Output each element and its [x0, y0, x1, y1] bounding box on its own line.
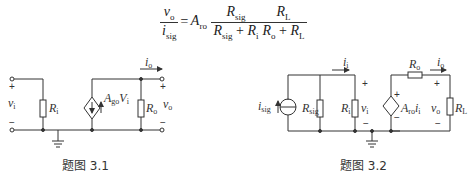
vi-plus: +: [362, 78, 368, 89]
vo-plus: +: [434, 78, 440, 89]
vi-minus: −: [363, 118, 369, 129]
resistor-ri: [352, 100, 358, 117]
label-vi: vi: [8, 96, 16, 111]
label-rsig: Rsig: [301, 101, 319, 116]
figure-3-2-caption: 题图 3.2: [340, 156, 387, 173]
resistor-ro: [408, 72, 422, 78]
label-vi: vi: [361, 101, 369, 116]
figure-3-1-circuit: [10, 69, 164, 147]
label-dependent-source: AgoVi: [103, 91, 130, 106]
vo-minus: −: [435, 118, 441, 129]
label-ii: ii: [343, 55, 349, 70]
label-isig: isig: [258, 99, 271, 114]
vo-minus: −: [160, 117, 166, 128]
resistor-ro: [138, 100, 144, 117]
source-plus: +: [394, 89, 400, 100]
label-io: io: [145, 55, 152, 70]
label-ro: Ro: [408, 57, 420, 72]
label-io: io: [437, 55, 444, 70]
source-minus: −: [394, 112, 400, 123]
label-dependent-source: Aroii: [400, 101, 421, 116]
vi-minus: −: [9, 117, 15, 128]
resistor-rl: [447, 98, 453, 115]
vi-plus: +: [9, 81, 15, 92]
label-ri: Ri: [48, 101, 59, 116]
label-vo: vo: [431, 101, 440, 116]
label-ri: Ri: [340, 101, 351, 116]
vo-plus: +: [160, 81, 166, 92]
label-rl: RL: [454, 101, 467, 116]
figure-3-1-caption: 题图 3.1: [62, 156, 109, 173]
circuit-diagrams: + vi − Ri AgoVi Ro + vo − io isig Rsig R…: [0, 0, 469, 181]
resistor-ri: [40, 100, 46, 117]
label-ro: Ro: [145, 101, 157, 116]
label-vo: vo: [163, 97, 172, 112]
